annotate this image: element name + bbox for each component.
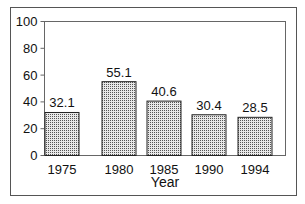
bar xyxy=(147,101,181,155)
x-tick-label: 1990 xyxy=(195,162,224,177)
y-tick-label: 20 xyxy=(23,121,37,136)
y-axis: 020406080100 xyxy=(16,14,45,163)
bar-value-label: 28.5 xyxy=(242,100,267,115)
bar xyxy=(102,82,136,156)
bar xyxy=(45,112,79,155)
y-tick-label: 100 xyxy=(16,14,38,29)
bar-chart: 020406080100 32.1197555.1198040.6198530.… xyxy=(0,0,305,204)
bars: 32.1197555.1198040.6198530.4199028.51994 xyxy=(45,65,272,177)
y-tick-label: 60 xyxy=(23,68,37,83)
bar xyxy=(238,117,272,155)
x-tick-label: 1980 xyxy=(105,162,134,177)
bar-value-label: 40.6 xyxy=(151,84,176,99)
bar-value-label: 32.1 xyxy=(49,95,74,110)
bar xyxy=(192,115,226,156)
x-tick-label: 1994 xyxy=(241,162,270,177)
bar-value-label: 55.1 xyxy=(106,65,131,80)
y-tick-label: 40 xyxy=(23,94,37,109)
y-tick-label: 80 xyxy=(23,41,37,56)
y-tick-label: 0 xyxy=(30,148,37,163)
x-tick-label: 1975 xyxy=(48,162,77,177)
bar-value-label: 30.4 xyxy=(196,98,221,113)
x-axis-title: Year xyxy=(151,174,180,190)
